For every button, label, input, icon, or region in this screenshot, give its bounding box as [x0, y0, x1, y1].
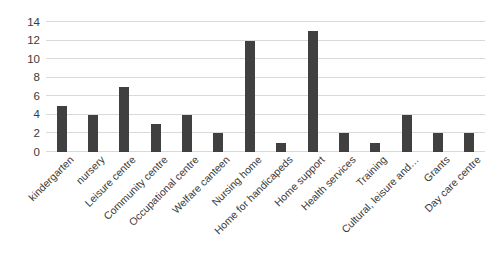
bar-series [46, 22, 485, 152]
bar [182, 115, 192, 152]
bar [433, 133, 443, 152]
bar [88, 115, 98, 152]
plot-area: 02468101214 [46, 22, 485, 152]
bar [151, 124, 161, 152]
bar [119, 87, 129, 152]
y-axis-tick-label: 6 [34, 91, 40, 103]
y-axis-tick-label: 8 [34, 72, 40, 84]
bar-slot [203, 22, 234, 152]
bar-slot [109, 22, 140, 152]
bar-slot [454, 22, 485, 152]
bar-slot [391, 22, 422, 152]
bar [57, 106, 67, 152]
cropped-title-strip [0, 0, 502, 7]
bar-slot [328, 22, 359, 152]
x-axis-tick-labels: kindergartennurseryLeisure centreCommuni… [46, 154, 485, 257]
bar-slot [422, 22, 453, 152]
bar [464, 133, 474, 152]
bar [245, 41, 255, 152]
y-axis-tick-label: 4 [34, 109, 40, 121]
bar-slot [140, 22, 171, 152]
bar-slot [266, 22, 297, 152]
bar-chart: 02468101214 kindergartennurseryLeisure c… [0, 0, 502, 257]
bar-slot [77, 22, 108, 152]
y-axis-tick-label: 12 [27, 35, 40, 47]
y-axis-tick-label: 0 [34, 146, 40, 158]
bar [339, 133, 349, 152]
bar [308, 31, 318, 152]
bar-slot [360, 22, 391, 152]
bar [276, 143, 286, 152]
bar-slot [171, 22, 202, 152]
bar [402, 115, 412, 152]
y-axis-tick-label: 10 [27, 53, 40, 65]
bar [370, 143, 380, 152]
bar [213, 133, 223, 152]
y-axis-tick-label: 2 [34, 128, 40, 140]
x-axis-tick-label: kindergarten [26, 154, 75, 203]
y-axis-tick-label: 14 [27, 16, 40, 28]
bar-slot [297, 22, 328, 152]
bar-slot [234, 22, 265, 152]
bar-slot [46, 22, 77, 152]
